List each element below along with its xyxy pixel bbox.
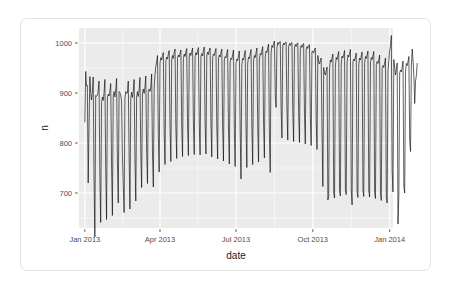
y-axis-ticks: 7008009001000 <box>55 39 77 198</box>
y-axis-tick-label: 800 <box>59 139 72 148</box>
y-axis-title: n <box>39 125 50 131</box>
y-axis-tick-label: 1000 <box>55 39 72 48</box>
x-axis-tick-label: Oct 2013 <box>298 235 328 244</box>
y-axis-tick-label: 700 <box>59 189 72 198</box>
x-axis-title: date <box>226 250 246 261</box>
x-axis-tick-label: Jan 2013 <box>69 235 100 244</box>
x-axis-tick-label: Jul 2013 <box>222 235 250 244</box>
time-series-chart: 7008009001000 Jan 2013Apr 2013Jul 2013Oc… <box>21 19 432 272</box>
y-axis-tick-label: 900 <box>59 89 72 98</box>
x-axis-tick-label: Apr 2013 <box>145 235 175 244</box>
x-axis-tick-label: Jan 2014 <box>374 235 405 244</box>
x-axis-ticks: Jan 2013Apr 2013Jul 2013Oct 2013Jan 2014 <box>69 229 405 244</box>
chart-card: 7008009001000 Jan 2013Apr 2013Jul 2013Oc… <box>20 18 431 271</box>
